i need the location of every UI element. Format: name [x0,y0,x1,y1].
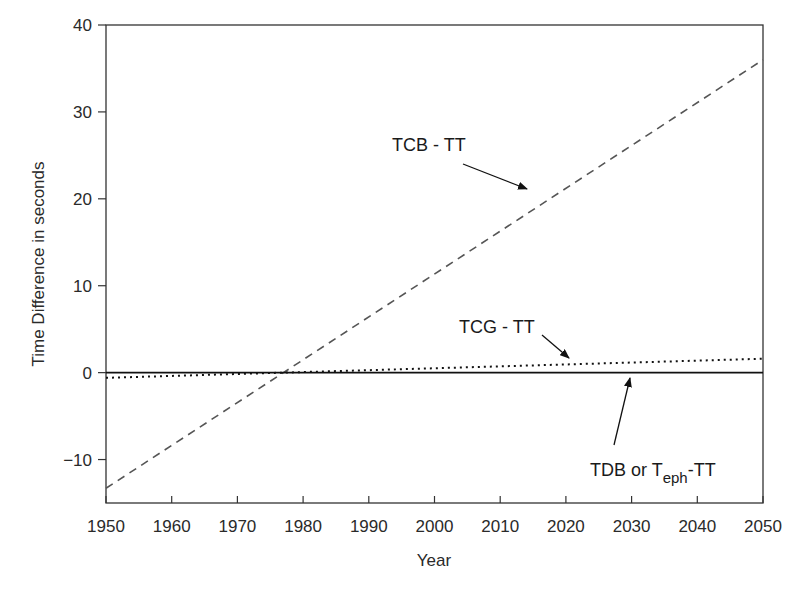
y-tick-label: −10 [63,451,92,470]
x-tick-label: 1990 [350,517,388,536]
x-tick-label: 2030 [613,517,651,536]
annotation-tcb-label: TCB - TT [392,135,466,155]
x-tick-label: 2020 [547,517,585,536]
annotation-tcb: TCB - TT [392,135,527,189]
annotation-tcg: TCG - TT [459,317,569,358]
y-tick-label: 10 [73,277,92,296]
y-tick-label: 20 [73,190,92,209]
x-axis-title: Year [417,551,452,570]
series-layer [106,60,763,488]
x-tick-label: 1970 [218,517,256,536]
x-tick-label: 1980 [284,517,322,536]
x-tick-label: 1950 [87,517,125,536]
arrow-icon [614,378,630,445]
x-tick-label: 2000 [416,517,454,536]
annotation-tcg-label: TCG - TT [459,317,535,337]
annotation-tdb-subscript: eph [663,469,688,486]
annotation-tdb-prefix: TDB or T [590,460,663,480]
x-tick-label: 2040 [678,517,716,536]
x-tick-label: 2010 [481,517,519,536]
y-axis-title: Time Difference in seconds [29,161,48,366]
series-line [106,60,763,488]
x-tick-label: 2050 [744,517,782,536]
x-axis: 1950196019701980199020002010202020302040… [87,496,782,536]
y-axis: −10010203040 [63,16,106,470]
series-line [106,359,763,378]
x-tick-label: 1960 [153,517,191,536]
y-tick-label: 30 [73,103,92,122]
arrow-icon [463,164,527,189]
annotation-tdb: TDB or Teph-TT [590,378,716,486]
y-tick-label: 40 [73,16,92,35]
arrow-icon [542,335,569,358]
annotation-tdb-suffix: -TT [688,460,716,480]
y-tick-label: 0 [83,364,92,383]
chart: 1950196019701980199020002010202020302040… [0,0,805,594]
annotation-tdb-label: TDB or Teph-TT [590,460,716,486]
plot-frame [106,25,763,503]
